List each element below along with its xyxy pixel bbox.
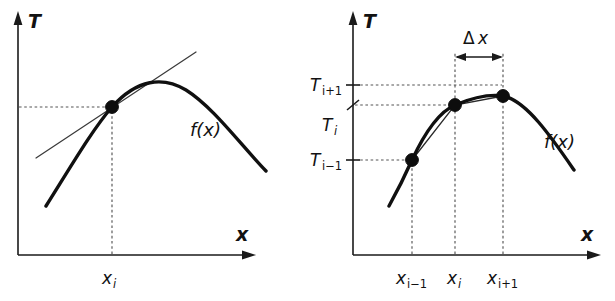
delta-x-label: Δ x — [463, 28, 489, 48]
x-tick-label-xi-plus-1: x i+1 — [486, 268, 518, 291]
svg-text:x: x — [477, 28, 489, 48]
svg-text:x: x — [486, 268, 498, 288]
y-axis-left — [14, 11, 23, 255]
figure-container: T x f(x) x i — [0, 0, 615, 301]
y-tick-label-ti-plus-1: T i+1 — [310, 75, 342, 98]
delta-x-left-arrow-icon — [455, 53, 466, 61]
point-i-plus-1 — [497, 90, 510, 103]
svg-text:i+1: i+1 — [498, 277, 518, 291]
x-tick-label-xi-left: x i — [101, 268, 117, 291]
x-tick-label-xi-minus-1: x i−1 — [395, 268, 427, 291]
svg-text:i+1: i+1 — [322, 84, 342, 98]
x-axis-arrow-icon — [587, 251, 601, 260]
svg-text:i: i — [113, 277, 117, 291]
y-tick-label-ti-minus-1: T i−1 — [310, 150, 342, 173]
svg-text:T: T — [310, 75, 322, 95]
x-tick-label-xi: x i — [446, 268, 462, 291]
delta-x-dimension — [455, 53, 503, 61]
curve-label-left: f(x) — [190, 119, 221, 140]
point-i-minus-1 — [406, 154, 419, 167]
y-axis-arrow-icon — [14, 11, 23, 25]
tangency-point — [106, 101, 119, 114]
x-axis-arrow-icon — [242, 251, 256, 260]
svg-text:Δ: Δ — [463, 28, 475, 48]
y-axis-label-right: T — [363, 10, 378, 32]
y-axis-arrow-icon — [349, 11, 358, 25]
tangent-derivative-panel: T x f(x) x i — [0, 0, 300, 301]
svg-text:T: T — [322, 115, 334, 135]
x-axis-right — [353, 251, 601, 260]
curve-fx-left — [46, 82, 266, 206]
point-i — [449, 99, 462, 112]
svg-text:i: i — [334, 124, 338, 138]
x-axis-label-left: x — [235, 223, 249, 245]
svg-text:x: x — [446, 268, 458, 288]
finite-difference-panel: T x f(x) Δ x T i+1 T i T i−1 x i−1 x i — [300, 0, 615, 301]
curve-label-right: f(x) — [544, 131, 575, 152]
svg-text:i−1: i−1 — [322, 159, 342, 173]
svg-text:x: x — [395, 268, 407, 288]
y-axis-right — [349, 11, 358, 255]
x-axis-label-right: x — [580, 223, 594, 245]
delta-x-right-arrow-icon — [492, 53, 503, 61]
svg-text:i: i — [458, 277, 462, 291]
y-tick-label-ti: T i — [322, 115, 338, 138]
y-axis-label-left: T — [28, 10, 43, 32]
x-axis-left — [18, 251, 256, 260]
svg-text:T: T — [310, 150, 322, 170]
svg-text:x: x — [101, 268, 113, 288]
svg-text:i−1: i−1 — [407, 277, 427, 291]
